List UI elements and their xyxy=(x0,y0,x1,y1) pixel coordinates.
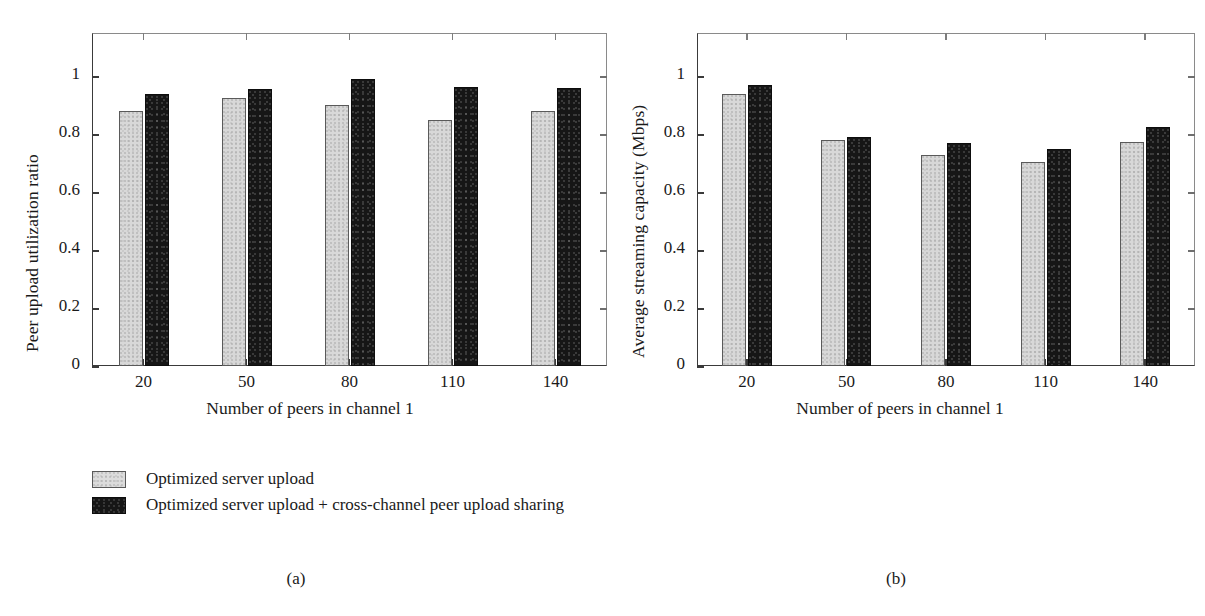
y-tick-label: 0.8 xyxy=(0,123,80,140)
x-tick-label: 110 xyxy=(423,372,483,392)
bar-light xyxy=(722,94,746,366)
x-tick-label: 140 xyxy=(526,372,586,392)
x-axis-label-b: Number of peers in channel 1 xyxy=(600,398,1200,419)
panel-a: Peer upload utilization ratio Number of … xyxy=(0,0,620,616)
x-tick-label: 20 xyxy=(717,372,777,392)
y-axis-tick-mirror xyxy=(1188,308,1195,310)
bar-light xyxy=(325,105,349,366)
y-tick-mark xyxy=(92,192,99,194)
x-tick-label: 50 xyxy=(816,372,876,392)
x-tick-label: 20 xyxy=(114,372,174,392)
x-tick-label: 80 xyxy=(916,372,976,392)
y-tick-label: 0.2 xyxy=(0,297,80,314)
legend-swatch-dark-icon xyxy=(92,497,126,514)
y-tick-mark xyxy=(697,76,704,78)
y-tick-label: 0.8 xyxy=(605,123,685,140)
y-tick-mark xyxy=(697,366,704,368)
bar-light xyxy=(531,111,555,366)
bar-dark xyxy=(248,89,272,366)
y-tick-label: 0.2 xyxy=(605,297,685,314)
bar-dark xyxy=(748,85,772,366)
bar-light xyxy=(222,98,246,366)
y-axis-tick-mirror xyxy=(1188,76,1195,78)
x-axis-tick-mark-top xyxy=(452,33,454,40)
subcaption-b: (b) xyxy=(866,569,926,589)
legend-a: Optimized server upload Optimized server… xyxy=(92,468,564,521)
x-axis-tick-mark-top xyxy=(945,33,947,40)
bar-dark xyxy=(847,137,871,366)
legend-label: Optimized server upload xyxy=(146,468,314,490)
bar-light xyxy=(1021,162,1045,366)
bar-dark xyxy=(145,94,169,366)
x-axis-tick-mark-top xyxy=(746,33,748,40)
y-tick-label: 1 xyxy=(605,65,685,82)
y-tick-label: 0.4 xyxy=(0,239,80,256)
x-tick-label: 50 xyxy=(217,372,277,392)
bar-light xyxy=(1120,142,1144,366)
bar-light xyxy=(821,140,845,366)
y-axis-tick-mirror xyxy=(1188,192,1195,194)
x-axis-tick-mark-top xyxy=(1144,33,1146,40)
y-tick-label: 0.6 xyxy=(0,181,80,198)
y-tick-label: 0 xyxy=(0,355,80,372)
y-tick-mark xyxy=(697,192,704,194)
x-tick-label: 140 xyxy=(1115,372,1175,392)
y-tick-label: 0.6 xyxy=(605,181,685,198)
y-tick-label: 0.4 xyxy=(605,239,685,256)
bar-dark xyxy=(351,79,375,366)
legend-swatch-light-icon xyxy=(92,471,126,488)
bar-dark xyxy=(1146,127,1170,366)
panel-b: Average streaming capacity (Mbps) Number… xyxy=(600,0,1205,616)
y-tick-mark xyxy=(92,366,99,368)
bar-dark xyxy=(1047,149,1071,366)
bar-dark xyxy=(454,87,478,366)
x-tick-label: 110 xyxy=(1016,372,1076,392)
x-axis-tick-mark-top xyxy=(349,33,351,40)
y-tick-mark xyxy=(697,134,704,136)
y-tick-mark xyxy=(697,308,704,310)
figure-two-bar-charts: Peer upload utilization ratio Number of … xyxy=(0,0,1205,616)
x-axis-tick-mark-top xyxy=(1045,33,1047,40)
y-axis-tick-mirror xyxy=(1188,250,1195,252)
y-tick-label: 1 xyxy=(0,65,80,82)
y-axis-tick-mirror xyxy=(1188,134,1195,136)
bar-light xyxy=(428,120,452,366)
y-tick-mark xyxy=(92,308,99,310)
bar-light xyxy=(921,155,945,366)
x-axis-tick-mark-top xyxy=(246,33,248,40)
subcaption-a: (a) xyxy=(266,569,326,589)
x-axis-label-a: Number of peers in channel 1 xyxy=(0,398,620,419)
y-tick-label: 0 xyxy=(605,355,685,372)
x-axis-tick-mark-top xyxy=(555,33,557,40)
bar-light xyxy=(119,111,143,366)
y-tick-mark xyxy=(92,76,99,78)
y-axis-label-b: Average streaming capacity (Mbps) xyxy=(628,105,649,358)
y-tick-mark xyxy=(92,250,99,252)
legend-label: Optimized server upload + cross-channel … xyxy=(146,494,564,516)
x-tick-label: 80 xyxy=(320,372,380,392)
legend-item: Optimized server upload + cross-channel … xyxy=(92,494,564,516)
bar-dark xyxy=(947,143,971,366)
x-axis-tick-mark-top xyxy=(143,33,145,40)
y-tick-mark xyxy=(697,250,704,252)
x-axis-tick-mark-top xyxy=(846,33,848,40)
legend-item: Optimized server upload xyxy=(92,468,564,490)
bar-dark xyxy=(557,88,581,366)
y-tick-mark xyxy=(92,134,99,136)
